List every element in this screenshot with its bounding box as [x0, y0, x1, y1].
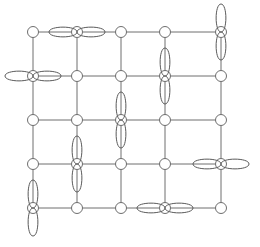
lattice-node-r3c2	[72, 115, 83, 126]
lattice-node-r3c1	[28, 115, 39, 126]
lattice-canvas	[0, 0, 260, 247]
lattice-node-r4c1	[28, 159, 39, 170]
lattice-node-r2c2	[72, 71, 83, 82]
lattice-node-r5c5	[216, 203, 227, 214]
lattice-node-r1c3	[116, 27, 127, 38]
lattice-node-r1c1	[28, 27, 39, 38]
lattice-node-r4c4	[160, 159, 171, 170]
lattice-node-r2c5	[216, 71, 227, 82]
lattice-node-r4c3	[116, 159, 127, 170]
lattice-node-r5c2	[72, 203, 83, 214]
lattice-node-r2c3	[116, 71, 127, 82]
lattice-node-r3c4	[160, 115, 171, 126]
lattice-node-r5c3	[116, 203, 127, 214]
lattice-node-r1c4	[160, 27, 171, 38]
lattice-node-r3c5	[216, 115, 227, 126]
lattice-diagram	[0, 0, 260, 247]
